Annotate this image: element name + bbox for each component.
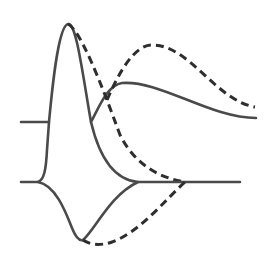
lower-dashed-trough xyxy=(83,182,185,244)
upper-dashed-descent xyxy=(68,24,185,182)
lower-trace xyxy=(21,122,240,244)
lower-solid-trough xyxy=(38,182,240,240)
upper-trace xyxy=(21,24,256,182)
upper-solid-waveform xyxy=(21,24,256,122)
lower-solid-rise xyxy=(21,122,49,182)
waveform-diagram xyxy=(0,0,271,261)
